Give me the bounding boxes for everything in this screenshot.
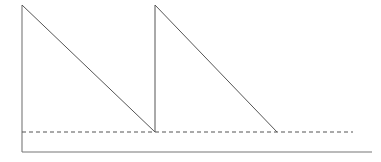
sawtooth-chart: [0, 0, 381, 162]
plot-background: [0, 0, 381, 162]
figure-container: [0, 0, 381, 162]
